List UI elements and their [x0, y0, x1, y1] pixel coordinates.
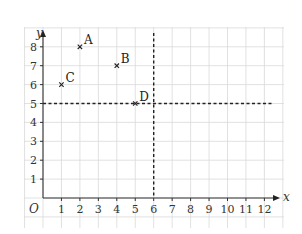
y-tick-label: 5 [30, 98, 37, 111]
x-tick-label: 3 [95, 203, 102, 216]
x-tick-label: 11 [239, 203, 253, 216]
x-tick-label: 1 [58, 203, 65, 216]
tick-labels: 12345678910111212345678Oxy [29, 26, 290, 216]
axes [40, 30, 280, 201]
x-tick-label: 9 [206, 203, 213, 216]
y-tick-label: 7 [30, 60, 37, 73]
x-tick-label: 6 [150, 203, 157, 216]
y-tick-label: 8 [30, 41, 37, 54]
point-label: A [83, 33, 93, 47]
x-axis-label: x [283, 190, 290, 204]
reference-lines [43, 33, 274, 198]
x-tick-label: 2 [76, 203, 83, 216]
y-tick-label: 4 [30, 116, 37, 129]
x-tick-label: 8 [187, 203, 194, 216]
x-axis-arrow-icon [273, 195, 280, 201]
y-tick-label: 2 [30, 154, 37, 167]
y-axis-label: y [35, 26, 43, 40]
x-tick-label: 12 [257, 203, 271, 216]
y-tick-label: 3 [30, 135, 37, 148]
point-label: B [121, 52, 130, 66]
x-tick-label: 7 [169, 203, 176, 216]
x-tick-label: 10 [221, 203, 235, 216]
origin-label: O [29, 202, 39, 216]
x-tick-label: 4 [113, 203, 120, 216]
y-tick-label: 6 [30, 79, 37, 92]
point-label: C [65, 71, 74, 85]
x-tick-label: 5 [132, 203, 139, 216]
coordinate-plot: 12345678910111212345678Oxy ABCD [0, 0, 302, 234]
point-label: D [139, 90, 149, 104]
y-tick-label: 1 [30, 173, 37, 186]
